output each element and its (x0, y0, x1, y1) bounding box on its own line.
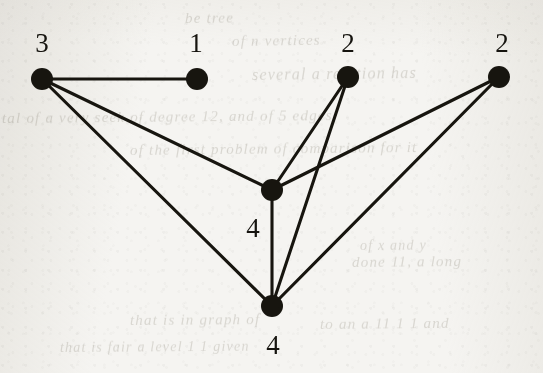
graph-edge (42, 79, 272, 190)
node-degree-label: 2 (495, 30, 509, 57)
node-degree-label: 4 (266, 332, 280, 359)
node-degree-label: 3 (35, 30, 49, 57)
graph-edge (272, 77, 499, 306)
graph-node (488, 66, 510, 88)
graph-edge (272, 77, 348, 190)
node-degree-label: 2 (341, 30, 355, 57)
graph-edge (272, 77, 348, 306)
node-degree-label: 4 (246, 215, 260, 242)
graph-edge (42, 79, 272, 306)
graph-node (261, 179, 283, 201)
graph-node (261, 295, 283, 317)
graph-edge (272, 77, 499, 190)
graph-node (186, 68, 208, 90)
node-degree-label: 1 (189, 30, 203, 57)
graph-node (31, 68, 53, 90)
graph-figure: be treeof n verticesseveral a relation h… (0, 0, 543, 373)
graph-canvas (0, 0, 543, 373)
graph-node (337, 66, 359, 88)
